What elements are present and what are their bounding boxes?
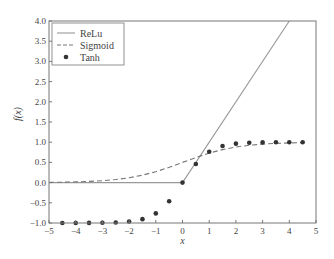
tanh-point [180, 180, 185, 185]
x-axis-label: x [179, 235, 185, 246]
activation-functions-chart: −5−4−3−2−1012345−1.0−0.50.00.51.01.52.02… [0, 0, 334, 259]
x-tick-label: −2 [124, 226, 134, 236]
sigmoid-line [49, 143, 303, 183]
y-tick-label: 2.5 [35, 77, 47, 87]
tanh-point [300, 140, 305, 145]
tanh-point [167, 199, 172, 204]
legend: ReLuSigmoidTanh [52, 23, 124, 65]
y-tick-label: 1.0 [35, 137, 47, 147]
y-tick-label: 3.0 [35, 56, 47, 66]
x-tick-label: 4 [287, 226, 292, 236]
tanh-point [154, 211, 159, 216]
legend-tanh-label: Tanh [80, 52, 100, 63]
legend-tanh-marker [64, 55, 69, 60]
y-tick-label: 2.0 [35, 97, 47, 107]
y-tick-label: 4.0 [35, 16, 47, 26]
tanh-point [234, 141, 239, 146]
legend-relu-label: ReLu [80, 28, 102, 39]
y-tick-label: −0.5 [30, 198, 47, 208]
tanh-point [207, 150, 212, 155]
y-tick-label: 0.5 [35, 157, 47, 167]
x-tick-label: 2 [234, 226, 239, 236]
tanh-point [220, 144, 225, 149]
tanh-point [113, 220, 118, 225]
tanh-point [194, 162, 199, 167]
x-tick-label: 3 [260, 226, 265, 236]
tanh-point [274, 140, 279, 145]
y-tick-label: −1.0 [30, 218, 47, 228]
y-tick-label: 0.0 [35, 178, 47, 188]
tanh-point [287, 140, 292, 145]
y-axis-label: f(x) [12, 106, 24, 121]
tanh-point [140, 217, 145, 222]
legend-sigmoid-label: Sigmoid [80, 40, 114, 51]
x-tick-label: 1 [207, 226, 212, 236]
x-tick-label: 5 [314, 226, 319, 236]
y-tick-label: 3.5 [35, 36, 47, 46]
tanh-point [260, 140, 265, 145]
y-tick-label: 1.5 [35, 117, 47, 127]
x-tick-label: −4 [71, 226, 81, 236]
x-tick-label: −3 [98, 226, 108, 236]
tanh-point [247, 140, 252, 145]
x-tick-label: −1 [151, 226, 161, 236]
